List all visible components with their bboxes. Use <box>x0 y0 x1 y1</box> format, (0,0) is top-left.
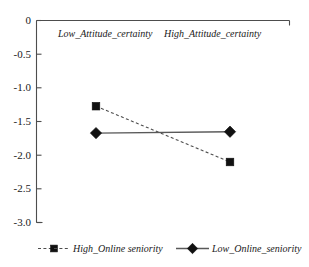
interaction-plot: 0 -0.5 -1.0 -1.5 -2.0 -2.5 -3.0 Low_Atti… <box>0 0 309 267</box>
marker-low-online-seniority-low-certainty <box>90 127 101 138</box>
legend-marker-diamond <box>187 243 197 253</box>
x-category-label-low: Low_Attitude_certainty <box>57 28 153 39</box>
series-line-high-online-seniority <box>96 106 230 162</box>
y-tick-label-3: -1.5 <box>14 115 32 127</box>
chart-legend: High_Online seniority Low_Online_seniori… <box>38 243 302 254</box>
marker-low-online-seniority-high-certainty <box>224 126 235 137</box>
y-tick-label-1: -0.5 <box>14 48 32 60</box>
y-tick-label-4: -2.0 <box>14 149 32 161</box>
y-tick-label-2: -1.0 <box>14 81 32 93</box>
marker-high-online-seniority-low-certainty <box>92 102 100 110</box>
y-tick-label-0: 0 <box>26 14 32 26</box>
legend-label-high-online-seniority: High_Online seniority <box>72 243 163 254</box>
legend-label-low-online-seniority: Low_Online_seniority <box>211 243 302 254</box>
marker-high-online-seniority-high-certainty <box>226 158 234 166</box>
series-line-low-online-seniority <box>96 132 230 133</box>
y-tick-label-6: -3.0 <box>14 216 32 228</box>
y-tick-label-5: -2.5 <box>14 182 32 194</box>
x-category-label-high: High_Attitude_certainty <box>163 28 262 39</box>
chart-canvas: 0 -0.5 -1.0 -1.5 -2.0 -2.5 -3.0 Low_Atti… <box>0 0 309 267</box>
